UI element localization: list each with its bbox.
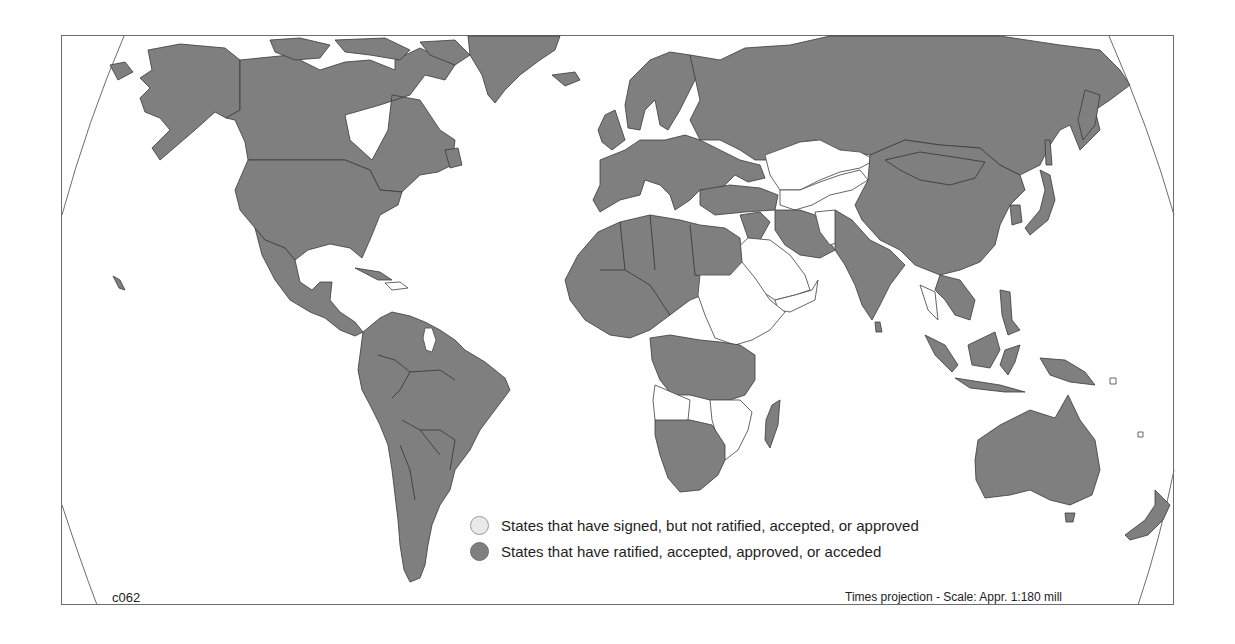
alaska	[110, 44, 240, 160]
arabian-border-states	[740, 212, 770, 240]
projection-edge-right	[1109, 36, 1174, 605]
java-lesser-sundas	[955, 378, 1025, 392]
philippines	[1000, 290, 1020, 335]
madagascar	[765, 400, 780, 448]
haiti-dominican	[385, 282, 408, 290]
tasmania	[1065, 513, 1075, 522]
legend-item-signed: States that have signed, but not ratifie…	[470, 512, 919, 538]
caribbean-cuba	[355, 268, 392, 280]
map-code: c062	[112, 590, 140, 605]
pacific-islet-2	[1138, 432, 1143, 437]
hawaii	[113, 276, 125, 290]
borneo	[968, 332, 1000, 368]
signed-swatch-icon	[470, 516, 489, 535]
indochina	[935, 275, 975, 320]
uk-ireland	[598, 110, 625, 150]
sri-lanka	[875, 322, 882, 332]
iceland	[552, 72, 580, 86]
ratified-swatch-icon	[470, 542, 489, 561]
north-america	[110, 36, 580, 336]
legend-label-ratified: States that have ratified, accepted, app…	[501, 543, 881, 560]
sumatra	[925, 335, 958, 372]
greenland	[468, 36, 560, 103]
southern-africa	[655, 420, 725, 492]
korea	[1010, 205, 1022, 225]
projection-edge-left	[62, 36, 124, 605]
australia	[975, 395, 1100, 505]
map-legend: States that have signed, but not ratifie…	[470, 512, 919, 564]
legend-item-ratified: States that have ratified, accepted, app…	[470, 538, 919, 564]
scandinavia	[625, 52, 700, 130]
new-zealand	[1125, 490, 1170, 540]
oceania	[920, 275, 1170, 540]
turkey	[700, 185, 778, 215]
sulawesi	[1000, 345, 1020, 375]
japan	[1025, 170, 1055, 235]
pacific-islet	[1110, 378, 1116, 384]
new-guinea	[1040, 358, 1095, 385]
projection-scale-note: Times projection - Scale: Appr. 1:180 mi…	[845, 590, 1062, 604]
legend-label-signed: States that have signed, but not ratifie…	[501, 517, 919, 534]
